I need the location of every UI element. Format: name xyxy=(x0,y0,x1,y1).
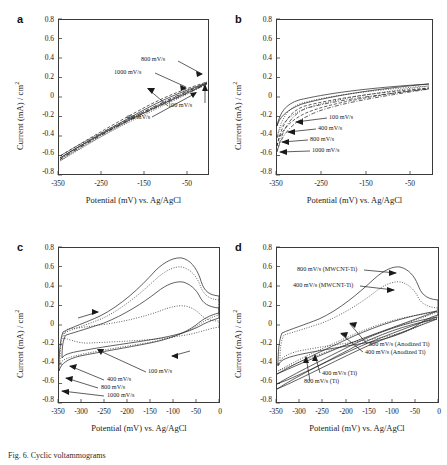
panel-d-annotation-800-ti: 800 mV/s (Ti) xyxy=(304,378,339,384)
panel-a-annotation-800: 800 mV/s xyxy=(141,56,165,62)
panel-b-annotation-1000: 1000 mV/s xyxy=(312,147,339,153)
panel-a-curves xyxy=(0,0,224,233)
panel-b-annotation-400: 400 mV/s xyxy=(318,125,342,131)
panel-c-annotation-1000: 1000 mV/s xyxy=(107,392,134,398)
panel-a: a Current (mA) / cm2 0.8 0.6 0.4 0.2 0 -… xyxy=(0,0,224,233)
panel-a-annotation-1000: 1000 mV/s xyxy=(114,69,141,75)
panel-c-curves xyxy=(0,233,224,465)
panel-d: d Current (mA) / cm2 0.8 0.6 0.4 0.2 0 -… xyxy=(224,233,447,465)
panel-d-annotation-400-ti: 400 mV/s (Ti) xyxy=(322,370,357,376)
figure-cyclic-voltammograms: a Current (mA) / cm2 0.8 0.6 0.4 0.2 0 -… xyxy=(0,0,447,465)
panel-c: c Current (mA) / cm2 0.8 0.6 0.4 0.2 0 -… xyxy=(0,233,224,465)
panel-d-annotation-400-mwcnt: 400 mV/s (MWCNT-Ti) xyxy=(293,282,353,288)
panel-a-annotation-400: 400 mV/s xyxy=(126,114,150,120)
panel-c-annotation-800: 800 mV/s xyxy=(101,384,125,390)
panel-d-annotation-400-anodized: 400 mV/s (Anodized Ti) xyxy=(365,349,426,355)
panel-d-annotation-800-mwcnt: 800 mV/s (MWCNT-Ti) xyxy=(297,266,357,272)
panel-a-annotation-100: 100 mV/s xyxy=(168,102,192,108)
panel-c-annotation-100: 100 mV/s xyxy=(148,368,172,374)
panel-b: b Current (mA) / cm2 0.8 0.6 0.4 0.2 0 -… xyxy=(224,0,447,233)
panel-b-annotation-100: 100 mV/s xyxy=(329,114,353,120)
panel-d-annotation-800-anodized: 800 mV/s (Anodized Ti) xyxy=(369,341,430,347)
panel-b-annotation-800: 800 mV/s xyxy=(310,136,334,142)
figure-caption: Fig. 6. Cyclic voltammograms xyxy=(8,451,438,463)
panel-c-annotation-400: 400 mV/s xyxy=(107,376,131,382)
